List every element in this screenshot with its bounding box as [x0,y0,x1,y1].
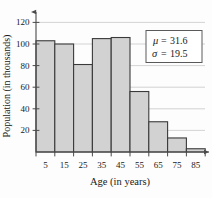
xtick-label-6: 65 [154,160,164,170]
bar-5[interactable] [130,92,149,152]
stats-box: μ = 31.6 σ = 19.5 [146,31,202,63]
mean-equals: = [161,35,167,46]
xtick-label-3: 35 [97,160,107,170]
x-ticks: 5 15 25 35 45 55 65 75 85 [36,152,205,170]
ytick-label-20: 20 [21,125,31,135]
xtick-label-5: 55 [135,160,145,170]
chart-canvas: 20 40 60 80 100 120 5 15 25 35 45 55 65 [0,0,212,198]
sd-equals: = [161,48,167,59]
mean-value: 31.6 [170,35,188,46]
xtick-label-1: 15 [60,160,70,170]
bar-0[interactable] [36,41,55,152]
bar-4[interactable] [111,38,130,152]
y-axis-label: Population (in thousands) [1,35,13,138]
bar-3[interactable] [92,39,111,152]
x-axis-label: Age (in years) [90,176,151,188]
bar-1[interactable] [55,44,74,152]
xtick-label-7: 75 [173,160,183,170]
bar-7[interactable] [168,138,187,152]
ytick-label-100: 100 [16,39,30,49]
ytick-label-80: 80 [21,61,31,71]
histogram-figure: 20 40 60 80 100 120 5 15 25 35 45 55 65 [0,0,212,198]
bar-6[interactable] [149,122,168,152]
ytick-label-40: 40 [21,104,31,114]
ytick-label-120: 120 [16,17,30,27]
ytick-label-60: 60 [21,82,31,92]
sd-symbol: σ [152,48,158,59]
bar-2[interactable] [74,65,93,152]
xtick-label-4: 45 [116,160,126,170]
xtick-label-0: 5 [43,160,48,170]
sd-value: 19.5 [170,48,188,59]
xtick-label-2: 25 [79,160,89,170]
xtick-label-8: 85 [191,160,201,170]
mean-symbol: μ [152,35,158,46]
